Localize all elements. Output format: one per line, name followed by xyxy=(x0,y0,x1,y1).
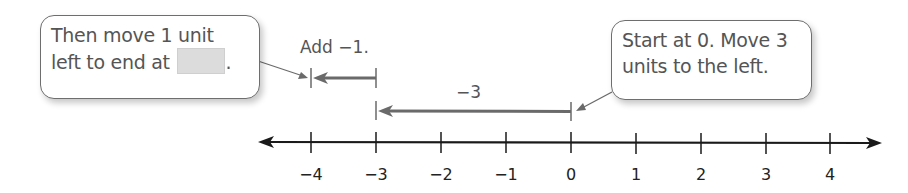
left-callout-line1: Then move 1 unit xyxy=(51,22,249,48)
left-callout-line2: left to end at . xyxy=(51,48,249,75)
right-callout-line1: Start at 0. Move 3 xyxy=(622,27,801,53)
add-minus-1-arrow xyxy=(311,68,376,88)
right-callout-line2: units to the left. xyxy=(622,53,801,79)
tick-label-neg2: −2 xyxy=(429,165,453,184)
tick-label-3: 3 xyxy=(761,165,771,184)
tick-label-2: 2 xyxy=(696,165,706,184)
right-callout: Start at 0. Move 3 units to the left. xyxy=(611,20,812,100)
move-label: −3 xyxy=(456,82,481,102)
tick-label-0: 0 xyxy=(566,165,576,184)
left-callout: Then move 1 unit left to end at . xyxy=(40,15,260,99)
move-minus-3-arrow xyxy=(376,101,571,121)
add-label: Add −1. xyxy=(300,37,369,57)
tick-label-neg1: −1 xyxy=(494,165,518,184)
tick-label-neg3: −3 xyxy=(364,165,388,184)
left-callout-pointer xyxy=(258,61,308,79)
right-callout-pointer xyxy=(576,92,612,111)
answer-blank xyxy=(177,48,225,74)
tick-label-1: 1 xyxy=(631,165,641,184)
number-line-axis xyxy=(266,142,872,143)
tick-label-4: 4 xyxy=(825,165,835,184)
tick-label-neg4: −4 xyxy=(299,165,323,184)
